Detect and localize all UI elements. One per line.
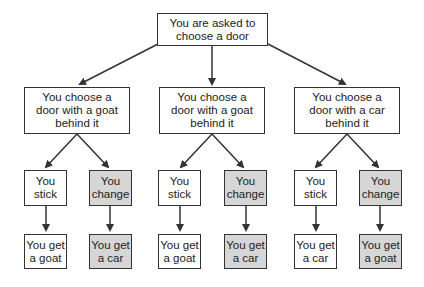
outcome-node-2-change: You get a car <box>224 234 267 269</box>
branch-label: You choose a door with a goat behind it <box>171 91 253 130</box>
branch-label: You choose a door with a goat behind it <box>36 91 118 130</box>
stick-node-2: You stick <box>158 170 201 206</box>
stick-node-3: You stick <box>294 170 337 206</box>
outcome-node-1-change: You get a car <box>89 234 132 269</box>
change-label: You change <box>92 175 130 201</box>
outcome-label: You get a car <box>91 239 130 265</box>
stick-label: You stick <box>168 175 191 201</box>
change-label: You change <box>227 175 265 201</box>
outcome-node-2-stick: You get a goat <box>158 234 201 269</box>
outcome-label: You get a goat <box>361 239 400 265</box>
stick-node-1: You stick <box>24 170 67 206</box>
root-node-label: You are asked to choose a door <box>170 17 256 43</box>
outcome-label: You get a car <box>296 239 335 265</box>
outcome-node-3-stick: You get a car <box>294 234 337 269</box>
monty-hall-decision-tree: You are asked to choose a door You choos… <box>0 0 424 287</box>
branch-node-goat-1: You choose a door with a goat behind it <box>24 87 130 134</box>
change-node-1: You change <box>89 170 132 206</box>
outcome-label: You get a goat <box>160 239 199 265</box>
change-node-3: You change <box>359 170 402 206</box>
branch-node-car: You choose a door with a car behind it <box>294 87 400 134</box>
stick-label: You stick <box>304 175 327 201</box>
branch-node-goat-2: You choose a door with a goat behind it <box>159 87 265 134</box>
root-node: You are asked to choose a door <box>157 13 268 46</box>
stick-label: You stick <box>34 175 57 201</box>
change-node-2: You change <box>224 170 267 206</box>
outcome-node-1-stick: You get a goat <box>24 234 67 269</box>
change-label: You change <box>362 175 400 201</box>
outcome-label: You get a goat <box>26 239 65 265</box>
outcome-node-3-change: You get a goat <box>359 234 402 269</box>
branch-label: You choose a door with a car behind it <box>309 91 384 130</box>
outcome-label: You get a car <box>226 239 265 265</box>
